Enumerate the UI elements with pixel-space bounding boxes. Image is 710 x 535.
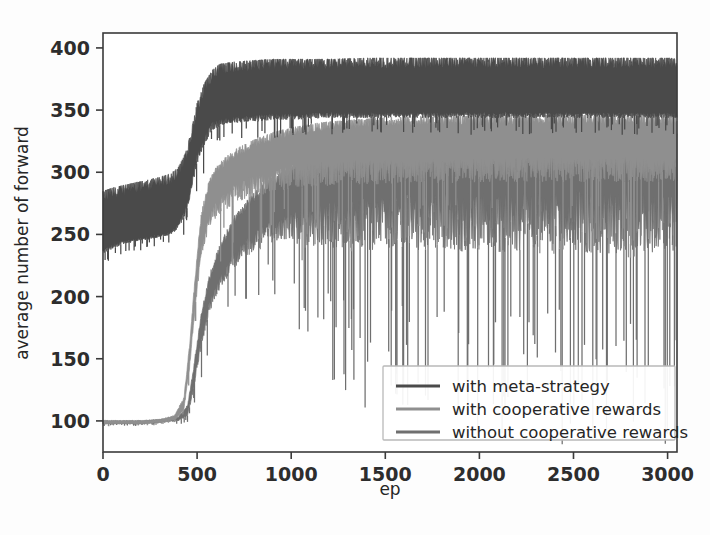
y-tick-label: 250 [50,223,90,245]
x-tick-label: 500 [177,463,217,485]
x-tick-label: 1000 [265,463,318,485]
chart-plot: 050010001500200025003000 100150200250300… [0,0,710,535]
y-axis-ticks: 100150200250300350400 [50,37,103,432]
legend-label-2: without cooperative rewards [452,423,688,442]
y-tick-label: 300 [50,161,90,183]
y-tick-label: 150 [50,348,90,370]
y-tick-label: 350 [50,99,90,121]
y-tick-label: 400 [50,37,90,59]
x-tick-label: 2000 [453,463,506,485]
x-tick-label: 3000 [641,463,694,485]
y-axis-label: average number of forward [12,126,32,360]
x-tick-label: 2500 [547,463,600,485]
x-tick-label: 0 [96,463,109,485]
y-tick-label: 100 [50,410,90,432]
figure-canvas: 050010001500200025003000 100150200250300… [0,0,710,535]
chart-legend[interactable]: with meta-strategywith cooperative rewar… [383,366,688,442]
y-tick-label: 200 [50,286,90,308]
x-axis-label: ep [379,479,400,499]
legend-label-1: with cooperative rewards [452,400,661,419]
legend-label-0: with meta-strategy [452,377,610,396]
